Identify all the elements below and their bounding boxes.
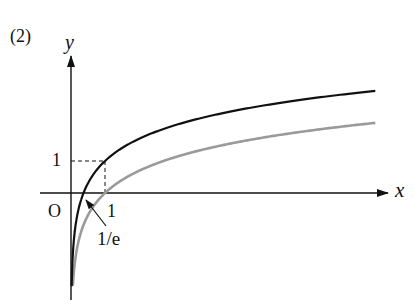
plot-area [0, 0, 420, 307]
problem-label: (2) [10, 27, 31, 45]
origin-label: O [48, 202, 61, 220]
curve-log-x [73, 123, 375, 286]
x-axis-label: x [395, 180, 404, 201]
one-over-e-text: 1/e [97, 228, 120, 249]
x-tick-label-1: 1 [107, 202, 116, 220]
one-over-e-label: 1/e [97, 229, 120, 248]
y-tick-label-1: 1 [52, 151, 61, 169]
curve-log-x-plus-1 [72, 91, 376, 286]
y-axis-label: y [65, 32, 74, 52]
